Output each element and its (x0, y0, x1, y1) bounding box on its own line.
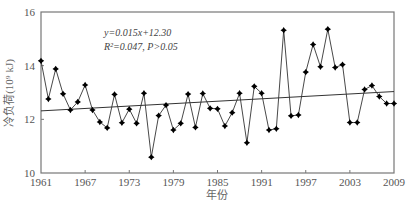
star-marker-icon (347, 119, 353, 125)
x-tick-label: 1961 (30, 176, 52, 188)
star-marker-icon (391, 100, 397, 106)
star-marker-icon (141, 90, 147, 96)
x-tick-label: 2003 (339, 176, 362, 188)
star-marker-icon (133, 120, 139, 126)
y-axis-title: 冷负荷(10⁹ kJ) (2, 59, 16, 127)
star-marker-icon (354, 119, 360, 125)
y-tick-label: 16 (24, 6, 36, 18)
regression-equation: y=0.015x+12.30 (103, 27, 171, 38)
x-axis-title: 年份 (206, 188, 228, 201)
x-tick-label: 2009 (383, 176, 406, 188)
star-marker-icon (361, 86, 367, 92)
data-line (41, 29, 394, 157)
star-marker-icon (207, 105, 213, 111)
star-marker-icon (295, 112, 301, 118)
star-marker-icon (38, 58, 44, 64)
star-marker-icon (317, 64, 323, 70)
star-marker-icon (339, 61, 345, 67)
star-marker-icon (119, 120, 125, 126)
star-marker-icon (229, 109, 235, 115)
star-marker-icon (185, 91, 191, 97)
star-marker-icon (192, 124, 198, 130)
star-marker-icon (53, 66, 59, 72)
x-tick-label: 1997 (295, 176, 318, 188)
axis-ticks: 1012141619611967197319791985199119972003… (24, 6, 406, 188)
star-marker-icon (155, 112, 161, 118)
star-marker-icon (325, 26, 331, 32)
line-chart: 1012141619611967197319791985199119972003… (0, 0, 409, 213)
star-marker-icon (369, 82, 375, 88)
star-marker-icon (45, 96, 51, 102)
star-marker-icon (126, 106, 132, 112)
star-marker-icon (310, 41, 316, 47)
x-tick-label: 1973 (118, 176, 141, 188)
star-marker-icon (82, 82, 88, 88)
star-marker-icon (222, 123, 228, 129)
star-marker-icon (273, 126, 279, 132)
x-tick-label: 1979 (162, 176, 185, 188)
y-tick-label: 14 (24, 60, 36, 72)
star-marker-icon (148, 154, 154, 160)
x-tick-label: 1967 (74, 176, 97, 188)
star-marker-icon (111, 91, 117, 97)
y-tick-label: 12 (24, 113, 35, 125)
star-marker-icon (163, 102, 169, 108)
data-markers (38, 26, 397, 160)
data-series (41, 29, 394, 157)
star-marker-icon (236, 90, 242, 96)
regression-stats: R²=0.047, P>0.05 (103, 41, 178, 52)
x-tick-label: 1985 (207, 176, 230, 188)
star-marker-icon (332, 64, 338, 70)
star-marker-icon (214, 106, 220, 112)
star-marker-icon (288, 113, 294, 119)
star-marker-icon (244, 139, 250, 145)
star-marker-icon (200, 90, 206, 96)
x-tick-label: 1991 (251, 176, 273, 188)
star-marker-icon (60, 91, 66, 97)
star-marker-icon (280, 27, 286, 33)
plot-axes (41, 12, 394, 173)
star-marker-icon (266, 127, 272, 133)
plot-frame (41, 12, 394, 173)
star-marker-icon (303, 69, 309, 75)
